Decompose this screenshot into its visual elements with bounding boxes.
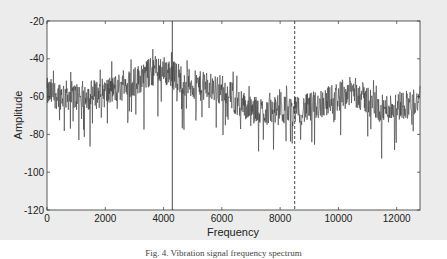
y-tick-label: -60 — [30, 91, 45, 102]
y-tick-label: -40 — [30, 53, 45, 64]
figure-caption: Fig. 4. Vibration signal frequency spect… — [0, 248, 447, 258]
x-tick-label: 2000 — [94, 213, 117, 224]
plot-area — [47, 21, 420, 210]
spectrum-chart: 020004000600080001000012000 -20-40-60-80… — [0, 0, 447, 259]
y-tick-label: -80 — [30, 129, 45, 140]
x-axis-label: Frequency — [207, 226, 259, 238]
x-tick-label: 8000 — [269, 213, 292, 224]
x-tick-label: 6000 — [211, 213, 234, 224]
y-tick-label: -20 — [30, 16, 45, 27]
x-tick-label: 10000 — [325, 213, 353, 224]
x-tick-label: 12000 — [383, 213, 411, 224]
x-tick-label: 4000 — [152, 213, 175, 224]
y-tick-label: -120 — [24, 205, 44, 216]
y-tick-label: -100 — [24, 167, 44, 178]
x-tick-label: 0 — [44, 213, 50, 224]
y-axis-label: Amplitude — [12, 91, 24, 140]
